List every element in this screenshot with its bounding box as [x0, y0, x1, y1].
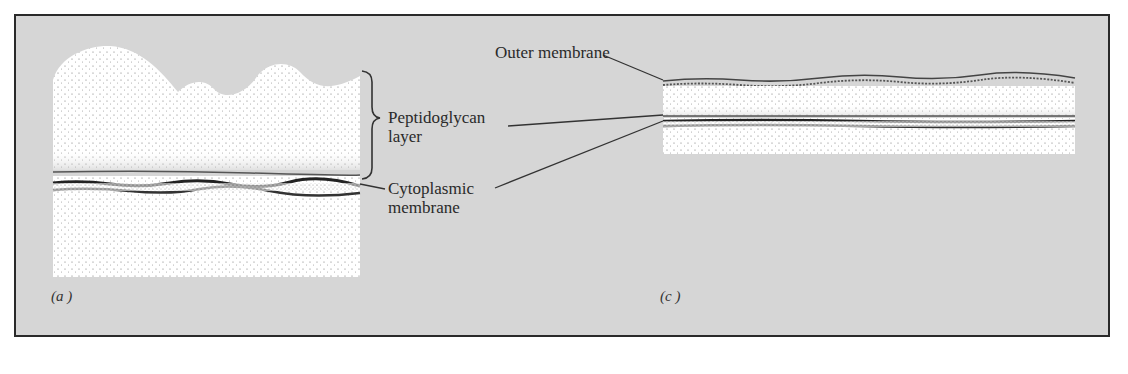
outer-membrane-label: Outer membrane: [495, 43, 610, 62]
panel-c-illustration: [663, 73, 1075, 154]
cytoplasmic-label-line2: membrane: [388, 198, 460, 217]
leader-lines: [495, 55, 663, 188]
cytoplasmic-label-line1: Cytoplasmic: [388, 179, 474, 198]
panel-a-label: (a ): [51, 288, 72, 305]
peptidoglycan-label-line1: Peptidoglycan: [388, 108, 485, 127]
panel-a-illustration: [53, 46, 385, 277]
panel-c-label: (c ): [660, 288, 680, 305]
peptidoglycan-brace: [362, 71, 380, 179]
peptidoglycan-label-line2: layer: [388, 127, 422, 146]
